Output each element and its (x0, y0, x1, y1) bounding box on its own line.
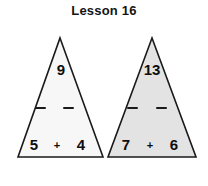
triangle-outlines (0, 0, 208, 186)
triangle-left-operator: + (51, 140, 63, 151)
triangle-figure: 9 5 + 4 13 7 + 6 (0, 0, 208, 186)
triangle-right-operator: + (144, 140, 156, 151)
triangle-right-blank-right[interactable] (156, 107, 167, 109)
triangle-left-blank-right[interactable] (63, 107, 74, 109)
triangle-right-blank-left[interactable] (127, 107, 138, 109)
triangle-left-bottom-left-number: 5 (27, 137, 41, 152)
triangle-left-top-number: 9 (53, 62, 69, 77)
triangle-right-top-number: 13 (142, 62, 162, 77)
triangle-right-bottom-right-number: 6 (167, 137, 181, 152)
triangle-left-blank-left[interactable] (35, 107, 46, 109)
worksheet-page: Lesson 16 9 5 + 4 13 7 + 6 (0, 0, 208, 186)
triangle-right-bottom-left-number: 7 (119, 137, 133, 152)
triangle-left-bottom-right-number: 4 (74, 137, 88, 152)
